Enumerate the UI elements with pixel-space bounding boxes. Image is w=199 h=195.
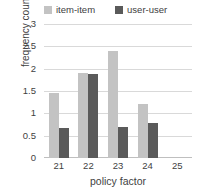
bar-group	[44, 24, 74, 158]
bar	[148, 123, 158, 158]
y-tick-label: 3	[31, 19, 36, 29]
chart-legend: item-item user-user	[44, 2, 194, 18]
x-axis-ticks: 2122232425	[44, 159, 192, 173]
x-tick-label: 24	[133, 159, 163, 173]
legend-swatch-icon	[44, 6, 52, 14]
x-axis-title: policy factor	[44, 175, 192, 187]
x-tick-label: 22	[74, 159, 104, 173]
legend-item-item-item: item-item	[44, 5, 95, 15]
y-tick-label: 2	[31, 64, 36, 74]
bar	[138, 104, 148, 158]
bar	[88, 74, 98, 158]
bar-chart: item-item user-user frequency count 00.5…	[0, 0, 199, 195]
bar	[118, 127, 128, 158]
bar	[49, 93, 59, 158]
bar	[108, 51, 118, 158]
y-axis-ticks: 00.511.522.53	[0, 24, 40, 158]
legend-label: user-user	[127, 5, 167, 15]
bar	[78, 73, 88, 158]
bar-groups	[44, 24, 192, 158]
x-tick-label: 23	[103, 159, 133, 173]
y-tick-label: 1	[31, 109, 36, 119]
plot-area	[44, 24, 192, 158]
y-tick-label: 0.5	[23, 131, 36, 141]
x-tick-label: 21	[44, 159, 74, 173]
legend-label: item-item	[56, 5, 95, 15]
bar-group	[74, 24, 104, 158]
y-tick-label: 0	[31, 153, 36, 163]
x-tick-label: 25	[162, 159, 192, 173]
y-tick-label: 2.5	[23, 42, 36, 52]
bar-group	[133, 24, 163, 158]
legend-item-user-user: user-user	[115, 5, 167, 15]
bar-group	[162, 24, 192, 158]
bar	[59, 128, 69, 158]
legend-swatch-icon	[115, 6, 123, 14]
y-tick-label: 1.5	[23, 86, 36, 96]
bar-group	[103, 24, 133, 158]
